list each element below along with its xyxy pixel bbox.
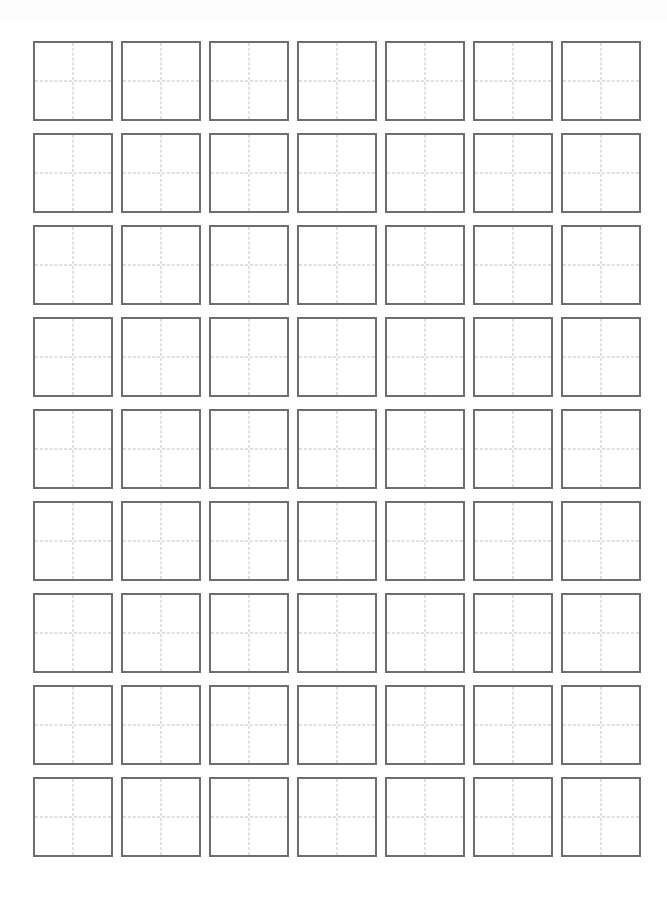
- practice-cell-glyph: [123, 135, 199, 211]
- practice-cell[interactable]: [33, 225, 113, 305]
- practice-cell[interactable]: [473, 133, 553, 213]
- practice-cell[interactable]: [33, 593, 113, 673]
- practice-cell[interactable]: [561, 593, 641, 673]
- practice-cell-glyph: [475, 411, 551, 487]
- practice-cell[interactable]: [473, 409, 553, 489]
- practice-cell[interactable]: [561, 133, 641, 213]
- practice-cell-glyph: [387, 595, 463, 671]
- practice-cell-glyph: [387, 779, 463, 855]
- practice-cell[interactable]: [33, 685, 113, 765]
- practice-cell-glyph: [211, 135, 287, 211]
- practice-cell[interactable]: [33, 133, 113, 213]
- practice-cell[interactable]: [209, 501, 289, 581]
- practice-cell[interactable]: [209, 133, 289, 213]
- practice-cell[interactable]: [297, 685, 377, 765]
- practice-cell[interactable]: [209, 409, 289, 489]
- practice-cell[interactable]: [561, 41, 641, 121]
- practice-cell-glyph: [299, 687, 375, 763]
- practice-cell[interactable]: [121, 317, 201, 397]
- practice-cell-glyph: [563, 319, 639, 395]
- practice-cell[interactable]: [33, 777, 113, 857]
- practice-cell-glyph: [387, 687, 463, 763]
- practice-cell[interactable]: [297, 317, 377, 397]
- practice-cell-glyph: [299, 411, 375, 487]
- practice-cell-glyph: [563, 411, 639, 487]
- practice-cell[interactable]: [297, 777, 377, 857]
- practice-cell-glyph: [35, 595, 111, 671]
- practice-cell[interactable]: [297, 409, 377, 489]
- practice-cell[interactable]: [121, 409, 201, 489]
- practice-cell-glyph: [123, 319, 199, 395]
- practice-cell[interactable]: [33, 409, 113, 489]
- practice-cell[interactable]: [209, 777, 289, 857]
- practice-cell-glyph: [299, 503, 375, 579]
- scan-artifact-band: [0, 0, 667, 20]
- practice-cell[interactable]: [561, 777, 641, 857]
- practice-cell-glyph: [387, 135, 463, 211]
- practice-cell[interactable]: [561, 685, 641, 765]
- practice-cell[interactable]: [385, 317, 465, 397]
- practice-cell[interactable]: [561, 225, 641, 305]
- practice-cell[interactable]: [473, 501, 553, 581]
- practice-cell[interactable]: [121, 133, 201, 213]
- practice-cell[interactable]: [121, 501, 201, 581]
- practice-cell[interactable]: [33, 501, 113, 581]
- practice-cell-glyph: [563, 687, 639, 763]
- practice-cell-glyph: [211, 687, 287, 763]
- practice-cell[interactable]: [121, 225, 201, 305]
- practice-cell-glyph: [563, 227, 639, 303]
- practice-cell-glyph: [563, 779, 639, 855]
- practice-cell-glyph: [475, 319, 551, 395]
- practice-cell[interactable]: [297, 41, 377, 121]
- practice-cell[interactable]: [385, 593, 465, 673]
- practice-cell-glyph: [35, 779, 111, 855]
- practice-cell[interactable]: [561, 317, 641, 397]
- practice-cell[interactable]: [561, 501, 641, 581]
- practice-cell[interactable]: [473, 317, 553, 397]
- practice-cell-glyph: [299, 135, 375, 211]
- practice-cell-glyph: [123, 411, 199, 487]
- practice-cell[interactable]: [209, 41, 289, 121]
- practice-cell[interactable]: [385, 133, 465, 213]
- practice-cell-glyph: [211, 227, 287, 303]
- practice-cell[interactable]: [473, 685, 553, 765]
- practice-cell[interactable]: [473, 777, 553, 857]
- practice-cell[interactable]: [473, 593, 553, 673]
- practice-cell-glyph: [123, 687, 199, 763]
- practice-cell[interactable]: [209, 225, 289, 305]
- practice-cell[interactable]: [473, 225, 553, 305]
- practice-cell[interactable]: [209, 685, 289, 765]
- practice-cell[interactable]: [121, 593, 201, 673]
- practice-cell-glyph: [387, 503, 463, 579]
- practice-cell[interactable]: [121, 777, 201, 857]
- tian-zi-ge-practice-grid: [33, 41, 641, 857]
- practice-cell[interactable]: [385, 777, 465, 857]
- practice-cell[interactable]: [33, 317, 113, 397]
- practice-cell-glyph: [211, 503, 287, 579]
- practice-cell[interactable]: [209, 593, 289, 673]
- practice-cell[interactable]: [297, 593, 377, 673]
- practice-cell-glyph: [563, 135, 639, 211]
- practice-cell[interactable]: [385, 685, 465, 765]
- practice-cell[interactable]: [209, 317, 289, 397]
- practice-cell-glyph: [123, 43, 199, 119]
- practice-cell[interactable]: [473, 41, 553, 121]
- practice-cell-glyph: [123, 779, 199, 855]
- practice-cell-glyph: [35, 227, 111, 303]
- practice-cell[interactable]: [121, 685, 201, 765]
- practice-cell[interactable]: [297, 225, 377, 305]
- practice-cell[interactable]: [297, 133, 377, 213]
- practice-cell[interactable]: [385, 41, 465, 121]
- practice-cell[interactable]: [385, 409, 465, 489]
- practice-cell-glyph: [35, 43, 111, 119]
- practice-cell[interactable]: [561, 409, 641, 489]
- practice-cell[interactable]: [33, 41, 113, 121]
- practice-cell[interactable]: [297, 501, 377, 581]
- practice-cell-glyph: [475, 595, 551, 671]
- practice-cell-glyph: [387, 43, 463, 119]
- practice-cell-glyph: [475, 43, 551, 119]
- practice-cell-glyph: [211, 411, 287, 487]
- practice-cell[interactable]: [385, 501, 465, 581]
- practice-cell[interactable]: [121, 41, 201, 121]
- practice-cell[interactable]: [385, 225, 465, 305]
